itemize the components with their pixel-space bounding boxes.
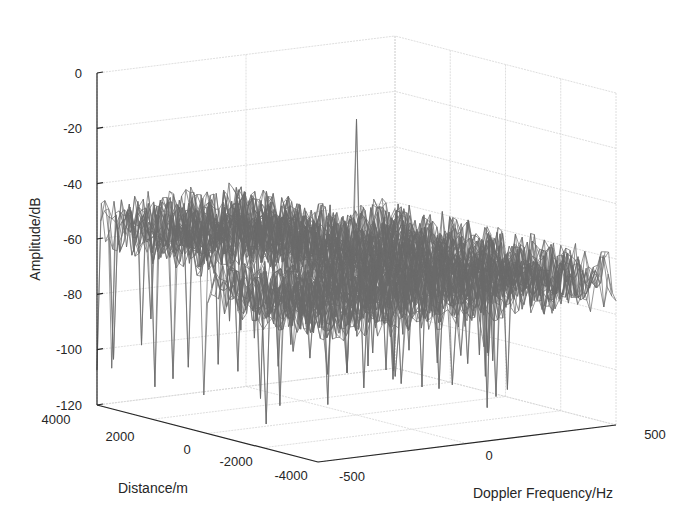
z-tick-2: -40 <box>63 177 82 192</box>
z-tick-4: -80 <box>63 287 82 302</box>
doppler-axis-line <box>318 425 616 462</box>
distance-axis-label: Distance/m <box>118 480 188 496</box>
distance-tick-0: 4000 <box>42 412 71 427</box>
surface-plot: 0 -20 -40 -60 -80 -100 -120 4000 2000 0 … <box>0 0 681 520</box>
z-tick-0: 0 <box>75 66 82 81</box>
distance-tick-3: -2000 <box>219 454 252 469</box>
distance-tick-4: -4000 <box>274 468 307 483</box>
z-tick-1: -20 <box>63 121 82 136</box>
surface-mesh <box>97 119 616 424</box>
z-tick-5: -100 <box>56 342 82 357</box>
distance-tick-2: 0 <box>183 442 190 457</box>
doppler-tick-2: 500 <box>644 427 666 442</box>
doppler-tick-1: 0 <box>485 448 492 463</box>
z-tick-3: -60 <box>63 232 82 247</box>
z-tick-6: -120 <box>56 398 82 413</box>
doppler-axis-label: Doppler Frequency/Hz <box>473 485 613 501</box>
distance-tick-1: 2000 <box>106 429 135 444</box>
doppler-tick-0: -500 <box>339 469 365 484</box>
z-axis-label: Amplitude/dB <box>27 197 43 280</box>
